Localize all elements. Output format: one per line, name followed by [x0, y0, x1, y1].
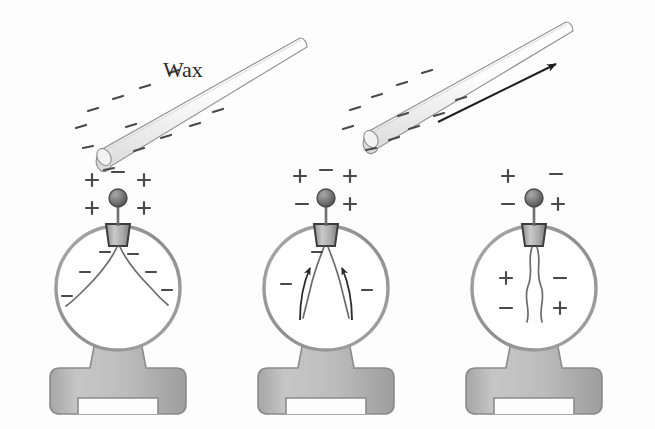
electroscope-figure: Wax: [0, 0, 655, 429]
wax-rod-withdrawn-body: [361, 22, 573, 154]
electroscope-3-knob: [525, 189, 543, 207]
electroscope-2-knob: [317, 189, 335, 207]
electroscope-2: [258, 170, 394, 414]
electroscope-3: [466, 170, 602, 414]
electroscope-2-cap: [314, 224, 338, 246]
wax-rod-withdrawn-charges: [343, 70, 466, 150]
electroscope-1-knob: [109, 189, 127, 207]
wax-rod-withdrawn: [343, 22, 573, 154]
electroscope-1-cap: [106, 224, 130, 246]
electroscope-3-cap: [522, 224, 546, 246]
wax-label: Wax: [163, 57, 203, 82]
electroscope-1: [50, 172, 186, 414]
